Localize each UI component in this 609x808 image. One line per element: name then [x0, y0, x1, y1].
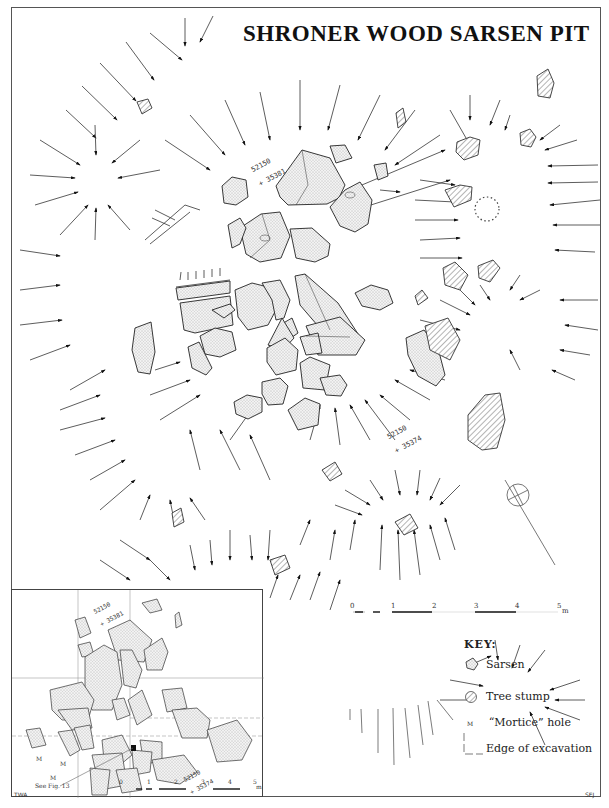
burst-circle — [475, 197, 499, 221]
key-icons — [464, 658, 483, 754]
legend-item-mortice-hole: M “Mortice” hole — [467, 716, 571, 729]
inset-mortice-label-1: M — [36, 755, 42, 762]
page-title: SHRONER WOOD SARSEN PIT — [243, 21, 590, 47]
legend-item-sarsen: Sarsen — [486, 658, 525, 671]
survey-marker — [505, 480, 555, 565]
fence-feature — [145, 205, 230, 287]
inset-mortice-label-2: M — [60, 760, 66, 767]
tree-stump-icon — [466, 692, 477, 703]
legend-title: KEY: — [464, 638, 497, 651]
sarsen-stones — [132, 145, 445, 430]
mortice-hole-marker — [131, 745, 136, 751]
inset-plan: 52150 + 35381 52150 + 35374 M M M See Fi… — [11, 589, 263, 797]
legend: KEY: Sarsen Tree stump M “Mortice” hole … — [464, 638, 497, 659]
inset-mortice-label-3: M — [50, 774, 56, 781]
legend-item-excavation-edge: Edge of excavation — [486, 742, 592, 755]
sarsen-icon — [466, 658, 478, 670]
legend-item-tree-stump: Tree stump — [486, 690, 550, 703]
mortice-hole-icon: M — [467, 720, 473, 727]
lower-fan-lines — [350, 700, 453, 765]
credit-left: TWA — [14, 791, 27, 798]
inset-see-fig: See Fig. 13 — [35, 782, 70, 789]
inset-drawing — [12, 590, 264, 798]
credit-right: SEJ — [585, 791, 594, 798]
excavation-edge-icon — [464, 733, 483, 754]
